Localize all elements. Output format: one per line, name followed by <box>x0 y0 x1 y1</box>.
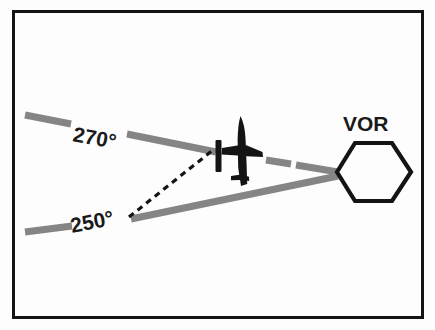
figure-root: 270° 250° VOR <box>0 0 435 330</box>
vor-station-label: VOR <box>343 112 389 135</box>
vor-navigation-diagram: 270° 250° VOR <box>0 0 435 330</box>
radial-270-segment-mid <box>266 160 291 164</box>
cdi-needle-bar <box>216 140 222 172</box>
